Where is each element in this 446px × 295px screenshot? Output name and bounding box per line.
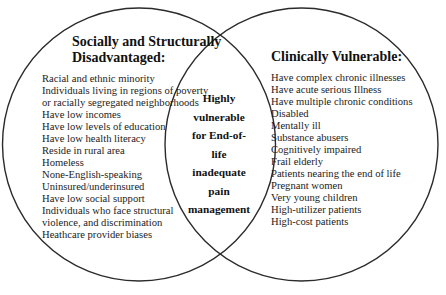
list-item: violence, and discrimination — [42, 217, 208, 229]
list-item: Have acute serious Illness — [271, 84, 413, 96]
right-set-title: Clinically Vulnerable: — [271, 49, 402, 65]
list-item: Patients nearing the end of life — [271, 168, 413, 180]
left-set-title-line: Disadvantaged: — [72, 50, 221, 66]
list-item: Have complex chronic illnesses — [271, 72, 413, 84]
list-item: Substance abusers — [271, 132, 413, 144]
list-item: Mentally ill — [271, 120, 413, 132]
list-item: Cognitively impaired — [271, 144, 413, 156]
intersection-line: inadequate — [179, 163, 259, 182]
left-set-title-line: Socially and Structurally — [72, 34, 221, 50]
list-item: Racial and ethnic minority — [42, 73, 208, 85]
left-set-title: Socially and Structurally Disadvantaged: — [72, 34, 221, 66]
intersection-line: management — [179, 200, 259, 219]
list-item: High-cost patients — [271, 216, 413, 228]
intersection-label: Highly vulnerable for End-of- life inade… — [179, 89, 259, 219]
intersection-line: vulnerable — [179, 108, 259, 127]
list-item: Very young children — [271, 192, 413, 204]
intersection-line: Highly — [179, 89, 259, 108]
list-item: Frail elderly — [271, 156, 413, 168]
intersection-line: for End-of- — [179, 126, 259, 145]
list-item: Pregnant women — [271, 180, 413, 192]
intersection-line: pain — [179, 182, 259, 201]
list-item: High-utilizer patients — [271, 204, 413, 216]
list-item: Have multiple chronic conditions — [271, 96, 413, 108]
list-item: Heathcare provider biases — [42, 229, 208, 241]
right-set-list: Have complex chronic illnesses Have acut… — [271, 72, 413, 228]
right-set-title-line: Clinically Vulnerable: — [271, 49, 402, 65]
intersection-line: life — [179, 145, 259, 164]
list-item: Disabled — [271, 108, 413, 120]
